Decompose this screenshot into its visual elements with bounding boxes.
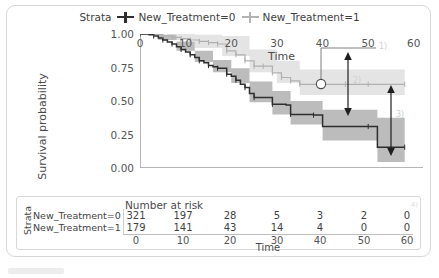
y-tick-label-5: 0.00 [100, 162, 134, 174]
risk-cell-r1-c1: 141 [168, 222, 198, 233]
y-tick-label-4: 0.25 [100, 129, 134, 141]
annotation-label-4: 4) [411, 201, 418, 209]
number-at-risk-table: Strata Number at risk 4) New_Treatment=0… [16, 196, 421, 250]
risk-cell-r1-c3: 14 [262, 222, 292, 233]
risk-row-label-0: New_Treatment=0 [33, 210, 121, 221]
plot-legend: Strata New_Treatment=0 New_Treatment=1 [0, 9, 439, 25]
risk-table-x-title: Time [123, 242, 413, 253]
legend-swatch-icon-treatment-1 [242, 12, 259, 23]
x-tick-label-7: 60 [399, 37, 429, 49]
risk-cell-r1-c4: 4 [305, 222, 335, 233]
y-tick-label-3: 0.50 [100, 95, 134, 107]
annotation-label-1: 1) [379, 42, 387, 51]
y-tick-label-2: 0.75 [100, 62, 134, 74]
x-tick-label-4: 30 [262, 37, 292, 49]
risk-table-strata-label: Strata [22, 198, 33, 244]
legend-item-treatment-0[interactable]: New_Treatment=0 [117, 11, 235, 23]
survival-plot: 1.00 0.75 0.50 0.25 0.00 0 10 20 30 40 5… [140, 34, 423, 168]
risk-cell-r1-c0: 179 [121, 222, 151, 233]
circle-marker-icon [316, 79, 325, 88]
risk-row-label-1: New_Treatment=1 [33, 222, 121, 233]
risk-cell-r1-c6: 0 [392, 222, 422, 233]
legend-item-treatment-1[interactable]: New_Treatment=1 [242, 11, 360, 23]
legend-swatch-icon-treatment-0 [117, 12, 134, 23]
risk-cell-r1-c5: 0 [349, 222, 379, 233]
risk-cell-r0-c3: 5 [262, 210, 292, 221]
risk-cell-r1-c2: 43 [215, 222, 245, 233]
risk-cell-r0-c0: 321 [121, 210, 151, 221]
x-tick-label-2: 10 [171, 37, 201, 49]
risk-cell-r0-c5: 2 [349, 210, 379, 221]
x-tick-label-3: 20 [216, 37, 246, 49]
risk-cell-r0-c4: 3 [305, 210, 335, 221]
x-tick-label-1: 0 [125, 37, 155, 49]
risk-cell-r0-c6: 0 [392, 210, 422, 221]
y-axis-title: Survival probability [36, 52, 49, 202]
legend-label-treatment-0: New_Treatment=0 [138, 11, 235, 23]
x-axis-title: Time [140, 50, 423, 63]
bottom-sliver [8, 268, 64, 274]
legend-label-treatment-1: New_Treatment=1 [263, 11, 360, 23]
risk-cell-r0-c1: 197 [168, 210, 198, 221]
annotation-label-3: 3) [396, 110, 404, 119]
x-tick-label-5: 40 [308, 37, 338, 49]
annotation-label-2: 2) [353, 76, 361, 85]
risk-cell-r0-c2: 28 [215, 210, 245, 221]
legend-title: Strata [79, 11, 111, 23]
